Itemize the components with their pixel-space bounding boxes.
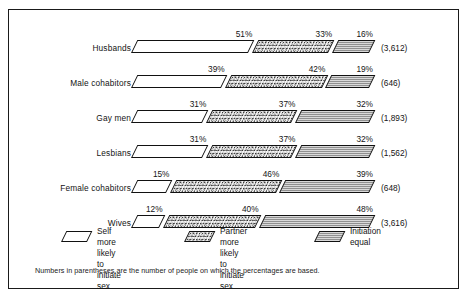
row-category-label: Gay men — [96, 113, 131, 123]
row-category-label: Lesbians — [97, 148, 131, 158]
bar-segment-value: 31% — [190, 99, 207, 109]
row-category-label: Husbands — [92, 43, 131, 53]
legend-swatch-self-icon — [61, 231, 92, 242]
row-category-label: Female cohabitors — [60, 183, 131, 193]
bar-segment-value: 46% — [263, 169, 280, 179]
bar-segment-self — [131, 180, 172, 193]
bar-segment-value: 37% — [279, 99, 296, 109]
bar-segment-self — [131, 110, 209, 123]
bar-segment-value: 32% — [356, 99, 373, 109]
chart-row: Gay men31%37%32%(1,893) — [9, 100, 460, 130]
bar-segment-value: 42% — [309, 64, 326, 74]
row-category-label: Male cohabitors — [70, 78, 131, 88]
bar-segment-equal — [295, 110, 375, 123]
bar-segment-value: 33% — [316, 29, 333, 39]
bar-segment-value: 31% — [190, 134, 207, 144]
bar-segment-partner — [170, 180, 282, 193]
row-sample-size: (646) — [381, 78, 400, 88]
legend-label: Initiation equal — [350, 226, 381, 248]
bar-segment-value: 37% — [279, 134, 296, 144]
bar-segment-partner — [206, 110, 297, 123]
chart-legend: Self more likely to initiate sexPartner … — [9, 226, 460, 262]
bar-segment-self — [131, 40, 255, 53]
row-sample-size: (3,612) — [381, 43, 407, 53]
legend-swatch-equal-icon — [314, 231, 345, 242]
bar-segment-value: 40% — [242, 204, 259, 214]
row-sample-size: (1,893) — [381, 113, 407, 123]
bar-segment-value: 12% — [146, 204, 163, 214]
stacked-bar-plot-area: Husbands51%33%16%(3,612)Male cohabitors3… — [9, 10, 460, 225]
row-sample-size: (648) — [381, 183, 400, 193]
row-sample-size: (1,562) — [381, 148, 407, 158]
bar-segment-value: 19% — [356, 64, 373, 74]
chart-row: Husbands51%33%16%(3,612) — [9, 30, 460, 60]
bar-segment-equal — [332, 40, 375, 53]
bar-segment-value: 39% — [208, 64, 225, 74]
bar-segment-value: 15% — [153, 169, 170, 179]
legend-swatch-partner-icon — [184, 231, 215, 242]
bar-segment-partner — [252, 40, 334, 53]
chart-figure-frame: Husbands51%33%16%(3,612)Male cohabitors3… — [8, 9, 459, 289]
legend-label: Partner more likely to initiate sex — [220, 226, 247, 292]
bar-segment-partner — [206, 145, 297, 158]
chart-row: Lesbians31%37%32%(1,562) — [9, 135, 460, 165]
chart-row: Male cohabitors39%42%19%(646) — [9, 65, 460, 95]
bar-segment-equal — [325, 75, 375, 88]
bar-segment-value: 32% — [356, 134, 373, 144]
chart-footnote: Numbers in parentheses are the number of… — [35, 266, 320, 275]
chart-row: Female cohabitors15%46%39%(648) — [9, 170, 460, 200]
bar-segment-equal — [279, 180, 375, 193]
bar-segment-value: 51% — [236, 29, 253, 39]
legend-label: Self more likely to initiate sex — [97, 226, 121, 292]
bar-segment-self — [131, 75, 227, 88]
bar-segment-partner — [225, 75, 328, 88]
bar-segment-equal — [295, 145, 375, 158]
bar-segment-value: 48% — [356, 204, 373, 214]
bar-segment-value: 39% — [356, 169, 373, 179]
bar-segment-self — [131, 145, 209, 158]
bar-segment-value: 16% — [356, 29, 373, 39]
